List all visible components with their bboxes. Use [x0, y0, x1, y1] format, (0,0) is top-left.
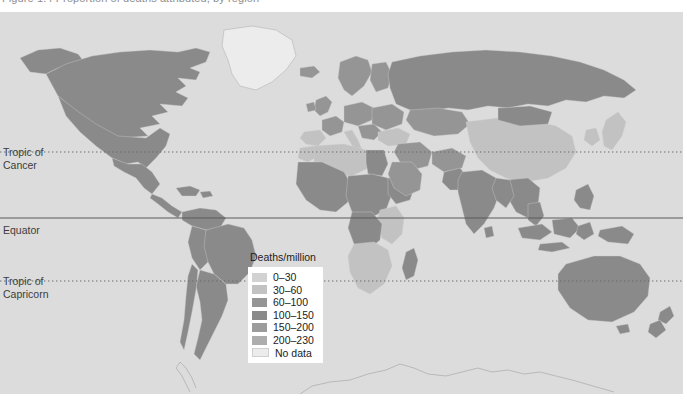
world-map-svg: .c30 { fill:#d2d2d2; } .c60 { fill:#c2c2…: [0, 12, 683, 394]
label-tropic-of-capricorn-line1: Tropic of: [3, 275, 49, 288]
legend-item-label: No data: [275, 347, 312, 360]
figure-caption-strip: Figure 1.4 Proportion of deaths attribut…: [0, 0, 687, 11]
label-tropic-of-capricorn-line2: Capricorn: [3, 288, 49, 301]
legend-color-swatch: [252, 298, 267, 307]
legend-color-swatch: [252, 348, 269, 357]
legend-color-swatch: [252, 285, 267, 294]
legend-item-label: 60–100: [273, 296, 308, 309]
map-panel: .c30 { fill:#d2d2d2; } .c60 { fill:#c2c2…: [0, 12, 683, 394]
figure-world-map: Figure 1.4 Proportion of deaths attribut…: [0, 0, 687, 404]
label-tropic-of-cancer-line1: Tropic of: [3, 146, 43, 159]
legend-color-swatch: [252, 273, 267, 282]
legend-item: 200–230: [252, 334, 314, 347]
legend-title: Deaths/million: [250, 251, 323, 263]
legend-color-swatch: [252, 336, 267, 345]
legend-item: No data: [252, 347, 314, 360]
label-tropic-of-cancer: Tropic of Cancer: [3, 146, 43, 171]
legend-item: 60–100: [252, 296, 314, 309]
label-tropic-of-capricorn: Tropic of Capricorn: [3, 275, 49, 300]
map-legend: Deaths/million 0–30 30–60 60–100 100–150: [248, 251, 323, 363]
island-sri-lanka: [484, 226, 494, 238]
legend-item: 30–60: [252, 284, 314, 297]
label-tropic-of-cancer-line2: Cancer: [3, 159, 43, 172]
legend-item-label: 200–230: [273, 334, 314, 347]
legend-item-label: 0–30: [273, 271, 296, 284]
label-equator: Equator: [3, 224, 40, 237]
legend-color-swatch: [252, 311, 267, 320]
legend-item: 150–200: [252, 321, 314, 334]
legend-item: 100–150: [252, 309, 314, 322]
figure-caption: Figure 1.4 Proportion of deaths attribut…: [2, 0, 259, 4]
legend-item-label: 30–60: [273, 284, 302, 297]
country-ireland: [306, 102, 316, 112]
legend-item: 0–30: [252, 271, 314, 284]
legend-item-label: 150–200: [273, 321, 314, 334]
legend-swatch-box: 0–30 30–60 60–100 100–150 150–200: [248, 267, 323, 363]
legend-item-label: 100–150: [273, 309, 314, 322]
label-equator-line1: Equator: [3, 224, 40, 237]
legend-color-swatch: [252, 323, 267, 332]
